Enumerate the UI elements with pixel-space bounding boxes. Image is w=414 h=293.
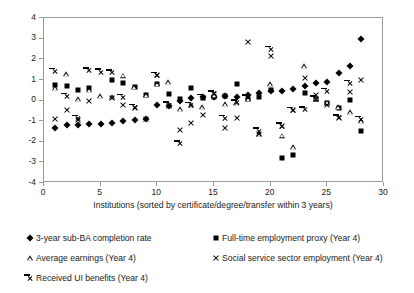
data-point — [302, 107, 308, 113]
y-tick-label: -2 — [14, 136, 36, 145]
data-point — [290, 86, 297, 93]
y-tick-label: 2 — [14, 54, 36, 63]
data-point — [177, 141, 183, 147]
legend-item: Received UI benefits (Year 4) — [24, 272, 148, 283]
data-point — [257, 95, 262, 100]
data-point — [132, 104, 138, 110]
data-point — [86, 97, 93, 104]
x-tick-label: 30 — [371, 188, 395, 197]
data-point — [358, 76, 365, 83]
scatter-chart: 43210-1-2-3-4 051015202530 Institutions … — [0, 0, 414, 293]
chart-legend: 3-year sub-BA completion rateFull-time e… — [24, 232, 410, 290]
legend-label: Full-time employment proxy (Year 4) — [222, 233, 360, 243]
data-point — [358, 36, 365, 43]
data-point — [268, 81, 274, 86]
legend-item: Average earnings (Year 4) — [24, 252, 136, 263]
square-marker-icon — [210, 232, 221, 243]
data-point — [347, 80, 353, 86]
data-point — [200, 94, 206, 100]
data-point — [256, 128, 262, 134]
data-point — [177, 106, 183, 111]
data-point — [358, 116, 364, 122]
data-point — [76, 88, 81, 93]
x-tick-label: 20 — [258, 188, 282, 197]
data-point — [336, 115, 342, 121]
y-tick-label: -3 — [14, 157, 36, 166]
data-point — [120, 102, 127, 109]
data-point — [120, 95, 126, 101]
data-point — [189, 85, 194, 90]
data-point — [222, 101, 228, 106]
data-point — [64, 72, 70, 77]
data-point — [290, 144, 296, 149]
data-point — [166, 102, 172, 108]
data-point — [154, 82, 160, 87]
data-point — [222, 125, 229, 132]
data-point — [52, 124, 59, 131]
data-point — [268, 46, 274, 52]
star-marker-icon — [24, 272, 35, 283]
data-point — [346, 62, 353, 69]
data-point — [86, 87, 92, 92]
data-point — [335, 69, 342, 76]
data-point — [312, 79, 319, 86]
data-point — [268, 87, 273, 92]
data-point — [278, 87, 285, 94]
data-point — [324, 78, 331, 85]
x-tick-label: 25 — [314, 188, 338, 197]
legend-label: Received UI benefits (Year 4) — [36, 273, 148, 283]
x-tick-mark — [100, 182, 101, 186]
data-point — [75, 96, 81, 101]
data-point — [188, 103, 194, 109]
data-point — [188, 94, 195, 101]
legend-label: Social service sector employment (Year 4… — [222, 253, 383, 263]
data-point — [52, 86, 58, 91]
x-tick-mark — [156, 182, 157, 186]
data-point — [223, 93, 228, 98]
y-tick-label: -4 — [14, 178, 36, 187]
data-point — [86, 68, 92, 74]
data-point — [301, 82, 308, 89]
data-point — [348, 97, 353, 102]
diamond-marker-icon — [24, 232, 35, 243]
legend-item: Social service sector employment (Year 4… — [210, 252, 383, 263]
data-point — [177, 126, 184, 133]
x-tick-mark — [383, 182, 384, 186]
data-point — [336, 104, 342, 109]
data-point — [302, 63, 308, 68]
data-point — [233, 114, 240, 121]
data-point — [245, 95, 251, 101]
data-point — [108, 120, 115, 127]
x-tick-mark — [213, 182, 214, 186]
data-point — [75, 115, 81, 121]
data-point — [245, 39, 252, 46]
data-point — [211, 91, 217, 97]
data-point — [143, 92, 149, 97]
data-point — [199, 111, 206, 118]
x-tick-mark — [43, 182, 44, 186]
data-point — [166, 91, 171, 96]
y-tick-label: 3 — [14, 33, 36, 42]
data-point — [109, 94, 116, 101]
data-point — [200, 104, 206, 109]
triangle-marker-icon — [24, 252, 35, 263]
x-tick-label: 15 — [201, 188, 225, 197]
data-point — [131, 117, 138, 124]
data-point — [63, 121, 70, 128]
y-tick-label: 0 — [14, 95, 36, 104]
data-point — [324, 102, 331, 109]
legend-label: 3-year sub-BA completion rate — [36, 233, 152, 243]
data-point — [178, 97, 183, 102]
legend-item: 3-year sub-BA completion rate — [24, 232, 152, 243]
data-point — [279, 133, 285, 138]
data-point — [52, 68, 58, 74]
data-point — [302, 91, 307, 96]
data-point — [291, 153, 296, 158]
data-point — [234, 100, 240, 106]
data-point — [188, 120, 195, 127]
data-point — [234, 81, 239, 86]
y-tick-label: -1 — [14, 116, 36, 125]
x-tick-label: 5 — [88, 188, 112, 197]
data-point — [359, 129, 364, 134]
data-point — [120, 117, 127, 124]
